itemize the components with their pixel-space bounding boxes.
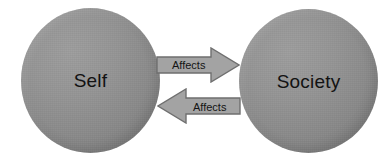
- edge-self-to-society-label: Affects: [172, 60, 205, 71]
- edge-society-to-self-label: Affects: [193, 102, 226, 113]
- node-society[interactable]: Society: [239, 9, 378, 153]
- node-self-label: Self: [74, 71, 108, 90]
- diagram-canvas: Self Society Affects Affects: [0, 0, 392, 166]
- node-society-label: Society: [277, 72, 341, 91]
- edge-self-to-society[interactable]: Affects: [156, 47, 240, 83]
- edge-society-to-self[interactable]: Affects: [157, 88, 241, 124]
- node-self[interactable]: Self: [21, 8, 160, 153]
